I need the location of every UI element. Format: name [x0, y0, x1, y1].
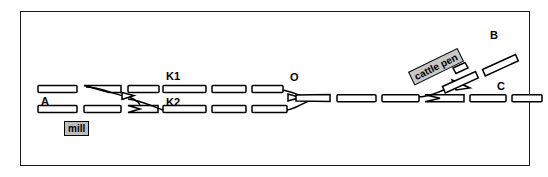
track-segment — [128, 86, 159, 93]
track-segment — [382, 95, 419, 102]
track-segment — [84, 106, 121, 113]
upper-line-segments — [38, 86, 283, 93]
node-label-K1: K1 — [166, 70, 180, 82]
branch-segment-upper — [483, 55, 519, 76]
node-label-C: C — [497, 80, 505, 92]
node-label-O: O — [290, 71, 299, 83]
node-label-K2: K2 — [166, 96, 180, 108]
facility-label-mill: mill — [64, 121, 89, 136]
track-segment — [470, 95, 506, 102]
track-segment — [212, 86, 246, 93]
track-segment — [337, 95, 376, 102]
track-segment — [163, 86, 206, 93]
track-segment — [252, 106, 287, 113]
lower-line-segments — [38, 106, 287, 113]
track-segment — [512, 95, 542, 102]
o-lead-segment — [296, 95, 330, 102]
track-segment — [212, 106, 246, 113]
track-segment — [252, 86, 283, 93]
figure-root: A K1 K2 O B C mill cattle pen — [0, 0, 548, 177]
node-label-B: B — [490, 29, 498, 41]
track-segment — [38, 86, 77, 93]
track-segment-switch-cattlepen — [425, 95, 464, 102]
track-diagram-canvas — [0, 0, 548, 177]
main-line-segments — [337, 95, 542, 102]
node-label-A: A — [41, 95, 49, 107]
